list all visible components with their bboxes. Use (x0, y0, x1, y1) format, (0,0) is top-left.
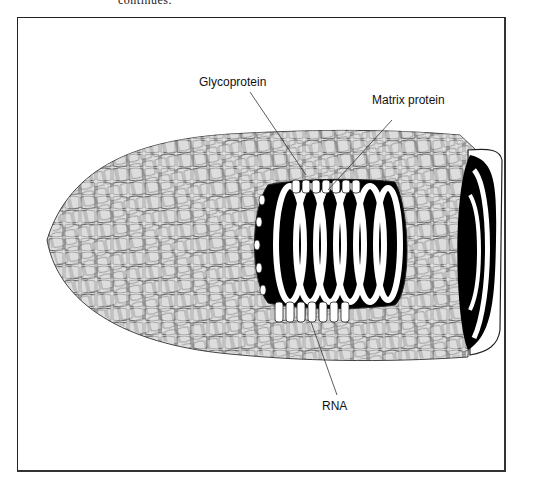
label-glycoprotein: Glycoprotein (199, 75, 266, 89)
end-cap-cross-section (457, 149, 502, 355)
cutaway-window (254, 179, 407, 322)
nucleoprotein-top-row (292, 180, 360, 193)
label-rna: RNA (322, 399, 347, 413)
label-matrix-protein: Matrix protein (372, 93, 445, 107)
nucleoprotein-bottom-row (275, 302, 349, 322)
virus-diagram (0, 0, 551, 485)
